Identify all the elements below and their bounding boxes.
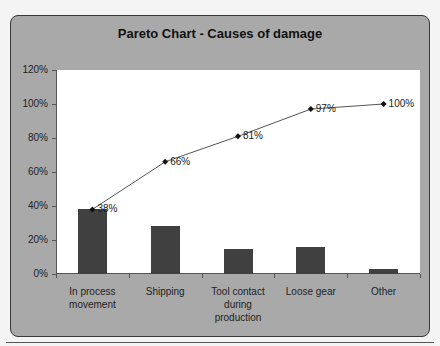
separator-line [6, 342, 434, 343]
cumulative-data-label: 38% [97, 203, 117, 214]
cumulative-data-label: 66% [170, 156, 190, 167]
cumulative-line [0, 0, 440, 346]
cumulative-data-label: 100% [389, 98, 415, 109]
diamond-marker-icon [381, 101, 387, 107]
cumulative-data-label: 97% [316, 103, 336, 114]
diamond-marker-icon [162, 159, 168, 165]
diamond-marker-icon [235, 133, 241, 139]
diamond-marker-icon [308, 106, 314, 112]
cumulative-data-label: 81% [243, 130, 263, 141]
diamond-marker-icon [89, 206, 95, 212]
